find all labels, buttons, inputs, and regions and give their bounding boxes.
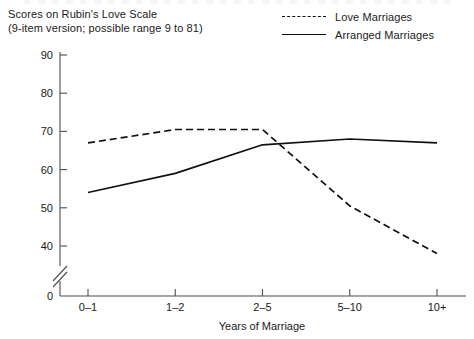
x-axis-tick-label: 2–5 [253, 301, 271, 313]
x-axis-tick-label: 10+ [428, 301, 447, 313]
x-axis-tick-label: 5–10 [338, 301, 362, 313]
x-axis-tick-label: 0–1 [79, 301, 97, 313]
x-axis-title: Years of Marriage [219, 320, 305, 332]
chart-plot-area: 405060708090 0 0–11–22–55–1010+ Years of… [0, 0, 474, 339]
y-axis-ticks [60, 55, 67, 246]
chart-figure: Scores on Rubin's Love Scale (9-item ver… [0, 0, 474, 339]
series-line-arranged-marriages [88, 139, 437, 193]
series-group [88, 130, 437, 254]
y-axis-tick-label: 50 [41, 202, 53, 214]
y-axis-tick-label: 70 [41, 125, 53, 137]
y-axis: 405060708090 0 [41, 49, 67, 302]
x-axis: 0–11–22–55–1010+ Years of Marriage [60, 289, 466, 332]
y-axis-tick-labels: 405060708090 [41, 49, 53, 252]
series-line-love-marriages [88, 130, 437, 254]
y-axis-tick-label: 80 [41, 87, 53, 99]
x-axis-tick-labels: 0–11–22–55–1010+ [79, 301, 447, 313]
y-axis-tick-label: 40 [41, 240, 53, 252]
y-axis-tick-label: 60 [41, 164, 53, 176]
x-axis-ticks [88, 289, 437, 296]
y-axis-tick-label: 90 [41, 49, 53, 61]
y-axis-origin-label: 0 [47, 290, 53, 302]
x-axis-tick-label: 1–2 [166, 301, 184, 313]
